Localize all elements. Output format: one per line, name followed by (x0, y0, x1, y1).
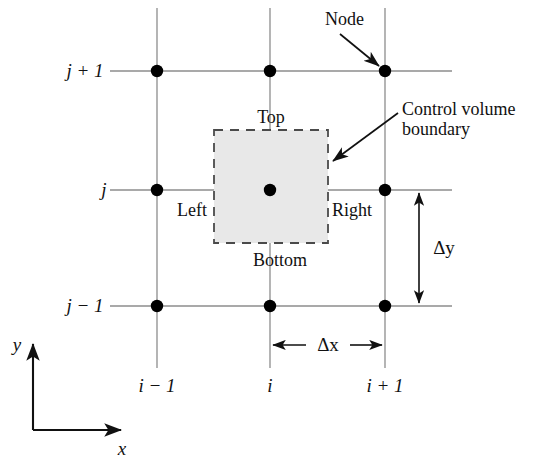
face-label-left: Left (177, 200, 207, 220)
node-leader-line (340, 34, 379, 66)
node-dot (151, 184, 163, 196)
callout-control-volume-boundary: Control volume boundary (402, 99, 516, 139)
node-dot (264, 65, 276, 77)
face-label-right: Right (332, 200, 372, 220)
node-dot (379, 65, 391, 77)
row-label-j-minus-1: j − 1 (66, 295, 103, 316)
delta-y-label: Δy (433, 237, 455, 258)
node-dot (379, 300, 391, 312)
callout-control-volume-line2: boundary (402, 119, 516, 139)
node-dot (379, 184, 391, 196)
row-label-j: j (101, 179, 106, 200)
callout-node-label: Node (325, 9, 364, 29)
column-label-i-minus-1: i − 1 (138, 375, 175, 396)
grid-nodes (151, 65, 391, 312)
face-label-bottom: Bottom (253, 250, 307, 270)
node-dot (151, 65, 163, 77)
delta-x-label: Δx (317, 334, 339, 355)
y-axis-label: y (13, 334, 21, 355)
control-volume-leader-line (333, 113, 398, 161)
face-label-top: Top (257, 107, 285, 127)
coordinate-axes (33, 344, 121, 430)
node-dot (264, 300, 276, 312)
row-label-j-plus-1: j + 1 (66, 60, 103, 81)
x-axis-label: x (118, 438, 126, 459)
finite-volume-grid-figure: j + 1 j j − 1 i − 1 i i + 1 Top Left Rig… (0, 0, 540, 460)
callout-control-volume-line1: Control volume (402, 99, 516, 119)
column-label-i-plus-1: i + 1 (366, 375, 403, 396)
node-dot (264, 184, 276, 196)
column-label-i: i (267, 375, 272, 396)
node-dot (151, 300, 163, 312)
